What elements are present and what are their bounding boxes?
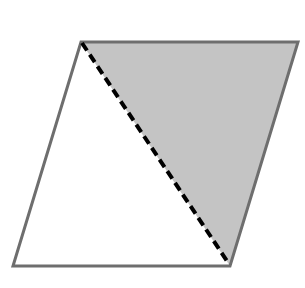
diagram-canvas <box>0 0 305 288</box>
parallelogram-diagram <box>0 0 305 288</box>
